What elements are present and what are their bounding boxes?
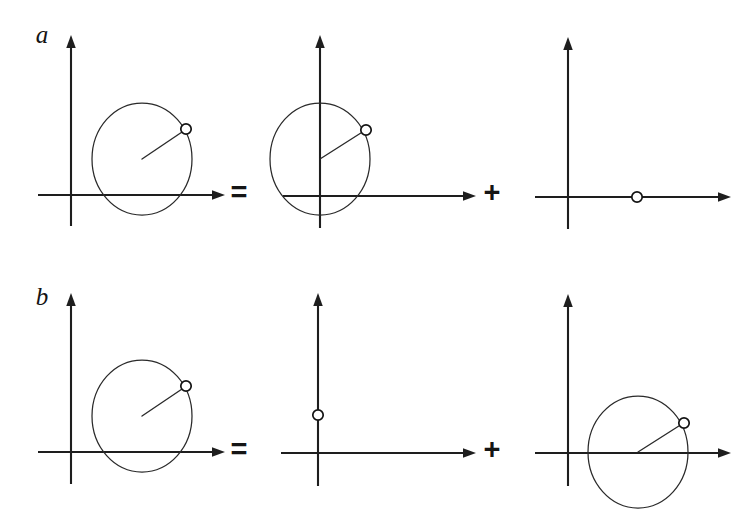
- panel-rotating-phasor-circle-origin-offset: [38, 293, 225, 484]
- phasor-radius-vector: [638, 424, 682, 452]
- x-axis-arrowhead-icon: [718, 192, 731, 202]
- x-axis-arrowhead-icon: [212, 190, 225, 200]
- phasor-point-marker-icon: [361, 125, 371, 135]
- y-axis-arrowhead-icon: [563, 37, 573, 50]
- x-axis-arrowhead-icon: [212, 447, 225, 457]
- phasor-point-marker-icon: [313, 410, 323, 420]
- row-label-a: a: [36, 21, 49, 48]
- y-axis-arrowhead-icon: [313, 293, 323, 306]
- figure-canvas: a=+b=+: [0, 0, 749, 521]
- panel-phasor-circle-centered-on-x-axis: [535, 294, 731, 508]
- y-axis-arrowhead-icon: [563, 294, 573, 307]
- y-axis-arrowhead-icon: [66, 35, 76, 48]
- y-axis-arrowhead-icon: [66, 293, 76, 306]
- y-axis-arrowhead-icon: [315, 35, 325, 48]
- panel-rotating-phasor-circle-origin-offset: [38, 35, 225, 226]
- phasor-point-marker-icon: [679, 418, 689, 428]
- row-label-b: b: [36, 283, 49, 310]
- operator-equals: =: [231, 433, 248, 465]
- phasor-point-marker-icon: [632, 192, 642, 202]
- x-axis-arrowhead-icon: [718, 448, 731, 458]
- operator-plus: +: [484, 433, 501, 465]
- panel-static-phasor-on-y-axis: [281, 293, 476, 486]
- x-axis-arrowhead-icon: [463, 448, 476, 458]
- diagram-row-b: b=+: [36, 283, 731, 509]
- phasor-point-marker-icon: [181, 381, 191, 391]
- phasor-radius-vector: [142, 387, 185, 416]
- phasor-decomposition-svg: a=+b=+: [0, 0, 749, 521]
- panel-phasor-circle-centered-on-y-axis: [270, 35, 476, 228]
- diagram-row-a: a=+: [36, 21, 731, 230]
- phasor-radius-vector: [142, 130, 185, 159]
- operator-plus: +: [484, 176, 501, 208]
- panel-static-phasor-on-x-axis: [535, 37, 731, 229]
- phasor-point-marker-icon: [181, 124, 191, 134]
- phasor-radius-vector: [320, 131, 364, 159]
- x-axis-arrowhead-icon: [463, 191, 476, 201]
- operator-equals: =: [231, 176, 248, 208]
